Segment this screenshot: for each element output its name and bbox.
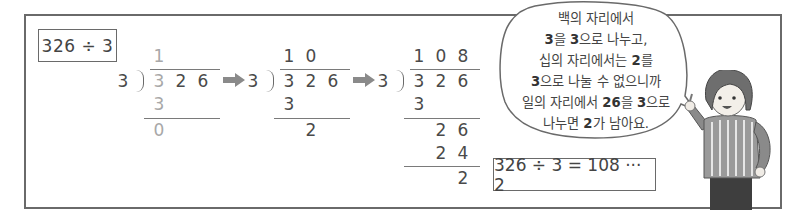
problem-expression-box: 326 ÷ 3: [38, 29, 117, 62]
work-digit: 2: [434, 119, 448, 141]
dividend-digit: 2: [434, 70, 448, 92]
emphasized-number: 3: [531, 74, 540, 89]
work-digit: 3: [282, 93, 296, 115]
speech-bubble-text: 백의 자리에서3을 3으로 나누고,십의 자리에서는 2를3으로 나눌 수 없으…: [505, 8, 687, 134]
work-digit: 0: [152, 119, 166, 141]
dividend-digit: 3: [152, 70, 166, 92]
bubble-text-segment: 일의 자리에서: [522, 95, 602, 110]
emphasized-number: 3: [570, 32, 579, 47]
bubble-text-segment: 십의 자리에서는: [539, 53, 631, 68]
dividend-digit: 3: [412, 70, 426, 92]
bubble-text-segment: 으로 나누고,: [579, 32, 647, 47]
divisor: 3: [246, 70, 260, 92]
quotient-digit: 8: [456, 45, 470, 67]
right-arrow-icon: [353, 73, 375, 87]
speech-bubble-line: 십의 자리에서는 2를: [505, 50, 687, 71]
result-expression-box: 326 ÷ 3 = 108 ··· 2: [493, 158, 656, 191]
speech-bubble-line: 백의 자리에서: [505, 8, 687, 29]
work-digit: 4: [456, 142, 470, 164]
quotient-digit: 0: [304, 45, 318, 67]
bubble-text-segment: 나누면: [543, 116, 583, 131]
quotient-digit: 1: [412, 45, 426, 67]
speech-bubble-line: 일의 자리에서 26을 3으로: [505, 92, 687, 113]
speech-bubble-line: 3을 3으로 나누고,: [505, 29, 687, 50]
problem-expression: 326 ÷ 3: [42, 36, 114, 56]
girl-character-illustration: [680, 70, 790, 210]
bubble-text-segment: 으로 나눌 수 없으니까: [540, 74, 661, 89]
emphasized-number: 3: [637, 95, 646, 110]
dividend-digit: 2: [304, 70, 318, 92]
divisor: 3: [376, 70, 390, 92]
emphasized-number: 26: [602, 95, 620, 110]
speech-bubble-line: 3으로 나눌 수 없으니까: [505, 71, 687, 92]
bubble-text-segment: 으로: [646, 95, 670, 110]
work-digit: 2: [304, 119, 318, 141]
quotient-digit: 1: [152, 45, 166, 67]
bubble-text-segment: 을: [554, 32, 570, 47]
dividend-digit: 6: [196, 70, 210, 92]
speech-bubble-line: 나누면 2가 남아요.: [505, 113, 687, 134]
work-digit: 2: [434, 142, 448, 164]
work-digit: 2: [456, 167, 470, 189]
dividend-digit: 3: [282, 70, 296, 92]
emphasized-number: 3: [545, 32, 554, 47]
bubble-text-segment: 백의 자리에서: [558, 11, 634, 26]
work-digit: 6: [456, 119, 470, 141]
bubble-text-segment: 가 남아요.: [593, 116, 649, 131]
dividend-digit: 6: [326, 70, 340, 92]
bubble-text-segment: 을: [621, 95, 637, 110]
result-expression: 326 ÷ 3 = 108 ··· 2: [494, 155, 655, 195]
emphasized-number: 2: [632, 53, 641, 68]
work-digit: 3: [412, 93, 426, 115]
right-arrow-icon: [223, 73, 245, 87]
quotient-digit: 1: [282, 45, 296, 67]
divisor: 3: [116, 70, 130, 92]
work-digit: 3: [152, 93, 166, 115]
quotient-digit: 0: [434, 45, 448, 67]
dividend-digit: 6: [456, 70, 470, 92]
dividend-digit: 2: [174, 70, 188, 92]
emphasized-number: 2: [583, 116, 592, 131]
bubble-text-segment: 를: [641, 53, 653, 68]
